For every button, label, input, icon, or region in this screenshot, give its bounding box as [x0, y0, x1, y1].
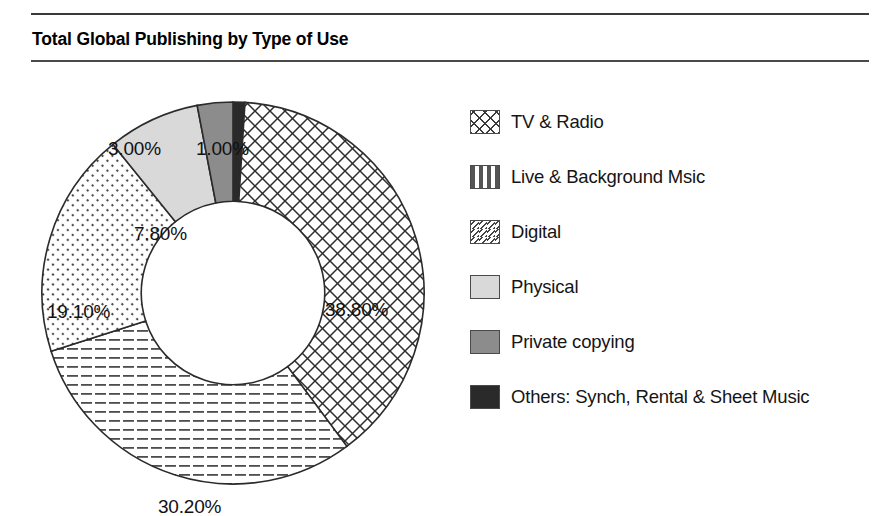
chart-legend: TV & Radio Live & Background Msic Digita… — [470, 110, 890, 440]
header-divider-top — [31, 13, 869, 15]
crosshatch-swatch-icon — [470, 110, 500, 134]
data-label-others: 1.00% — [196, 138, 249, 160]
data-label-physical: 7.80% — [134, 223, 187, 245]
legend-item-private-copying: Private copying — [470, 330, 890, 385]
black-swatch-icon — [470, 385, 500, 409]
data-label-tv-radio: 38.80% — [325, 299, 388, 321]
data-label-digital: 19.10% — [47, 301, 110, 323]
donut-chart: 3.00% 1.00% 7.80% 19.10% 30.20% 38.80% — [0, 66, 470, 516]
donut-slice — [51, 321, 347, 484]
dashes-swatch-icon — [470, 165, 500, 189]
light-gray-swatch-icon — [470, 275, 500, 299]
legend-label: Physical — [511, 274, 578, 300]
donut-chart-svg — [0, 66, 470, 516]
legend-item-physical: Physical — [470, 275, 890, 330]
legend-item-others: Others: Synch, Rental & Sheet Music — [470, 385, 890, 440]
legend-item-tv-radio: TV & Radio — [470, 110, 890, 165]
legend-label: Others: Synch, Rental & Sheet Music — [511, 384, 809, 410]
legend-label: Private copying — [511, 329, 634, 355]
legend-label: Live & Background Msic — [511, 164, 705, 190]
mid-gray-swatch-icon — [470, 330, 500, 354]
page-title: Total Global Publishing by Type of Use — [32, 28, 348, 50]
dotted-diagonal-swatch-icon — [470, 220, 500, 244]
data-label-private-copying: 3.00% — [108, 138, 161, 160]
header-divider-bottom — [31, 60, 869, 62]
legend-item-live-background-music: Live & Background Msic — [470, 165, 890, 220]
legend-label: Digital — [511, 219, 561, 245]
legend-label: TV & Radio — [511, 109, 604, 135]
legend-item-digital: Digital — [470, 220, 890, 275]
data-label-live-background-music: 30.20% — [158, 496, 221, 516]
